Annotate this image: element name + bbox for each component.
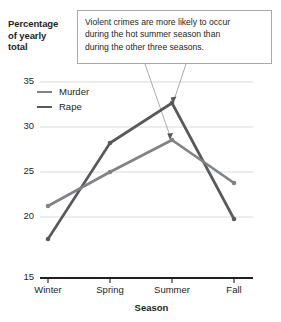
x-tick-label-summer: Summer (137, 284, 207, 295)
x-tick-label-fall: Fall (199, 284, 269, 295)
legend-item-murder: Murder (37, 84, 89, 99)
x-axis-title-text: Season (113, 302, 169, 313)
y-tick-label: 25 (10, 165, 34, 176)
series-rape (46, 101, 237, 242)
annotation-callout: Violent crimes are more likely to occur … (77, 10, 272, 64)
annotation-line1: Violent crimes are more likely to occur (85, 16, 265, 28)
annotation-line2: during the hot summer season than (85, 28, 265, 40)
legend-swatch-murder (37, 91, 52, 93)
annotation-line3: during the other three seasons. (85, 41, 265, 53)
legend-label-murder: Murder (59, 86, 89, 97)
x-axis-title: Season (0, 302, 281, 313)
x-tick-label-spring: Spring (75, 284, 145, 295)
legend-swatch-rape (37, 106, 52, 108)
y-tick-label: 30 (10, 120, 34, 131)
legend-label-rape: Rape (59, 101, 82, 112)
legend-item-rape: Rape (37, 99, 89, 114)
legend: Murder Rape (37, 84, 89, 114)
y-tick-label: 35 (10, 75, 34, 86)
callout-leader-lines (145, 64, 186, 140)
line-chart: Percentage of yearly total (0, 0, 281, 322)
x-axis (40, 278, 253, 283)
y-tick-label: 20 (10, 210, 34, 221)
x-tick-label-winter: Winter (13, 284, 83, 295)
y-tick-label: 15 (10, 271, 34, 282)
